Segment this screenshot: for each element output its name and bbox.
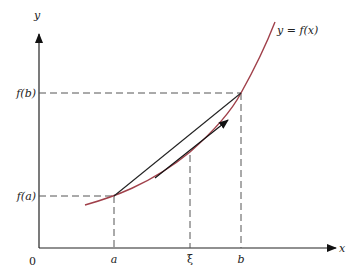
secant-line <box>114 93 241 196</box>
origin-label: 0 <box>29 255 36 268</box>
x-axis-label: x <box>339 242 346 255</box>
fa-label: f(a) <box>16 190 36 203</box>
mean-value-diagram: y x 0 f(b) f(a) a ξ b y = f(x) <box>0 0 357 277</box>
fb-label: f(b) <box>15 87 36 100</box>
xi-tick-label: ξ <box>187 253 193 266</box>
y-axis-label: y <box>33 9 41 22</box>
function-curve <box>85 22 275 205</box>
b-tick-label: b <box>237 253 244 266</box>
curve-label: y = f(x) <box>276 24 318 37</box>
a-tick-label: a <box>111 253 118 266</box>
tangent-arrow <box>155 120 228 178</box>
